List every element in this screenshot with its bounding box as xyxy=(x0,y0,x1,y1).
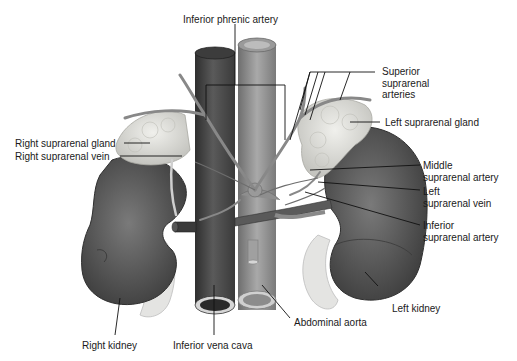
right-suprarenal-gland xyxy=(116,111,190,165)
label-left-suprarenal-gland: Left suprarenal gland xyxy=(385,117,479,129)
label-right-suprarenal-gland: Right suprarenal gland xyxy=(15,138,116,150)
label-right-kidney: Right kidney xyxy=(82,340,137,352)
label-left-suprarenal-vein: Left suprarenal vein xyxy=(423,186,491,209)
label-left-kidney: Left kidney xyxy=(392,303,440,315)
inferior-vena-cava xyxy=(195,47,235,314)
label-inferior-phrenic-artery: Inferior phrenic artery xyxy=(183,14,278,26)
kidney-suprarenal-diagram: Inferior phrenic artery Superior suprare… xyxy=(0,0,517,361)
label-middle-suprarenal-artery: Middle suprarenal artery xyxy=(423,160,499,183)
label-right-suprarenal-vein: Right suprarenal vein xyxy=(15,151,110,163)
label-inferior-suprarenal-artery: Inferior suprarenal artery xyxy=(423,220,499,243)
label-superior-suprarenal-arteries: Superior suprarenal arteries xyxy=(382,66,429,101)
label-abdominal-aorta: Abdominal aorta xyxy=(294,317,367,329)
label-inferior-vena-cava: Inferior vena cava xyxy=(173,340,253,352)
